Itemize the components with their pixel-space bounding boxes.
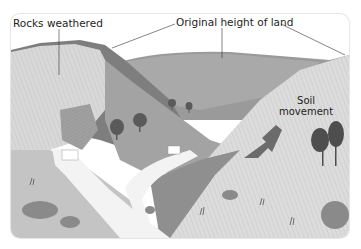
label-soil-line1: Soil [279,96,333,107]
label-rocks-weathered: Rocks weathered [13,18,103,29]
waterfall [62,150,78,160]
valley-illustration [0,0,361,249]
label-soil-movement: Soil movement [279,96,333,117]
label-original-height: Original height of land [176,17,293,28]
label-soil-line2: movement [279,107,333,118]
